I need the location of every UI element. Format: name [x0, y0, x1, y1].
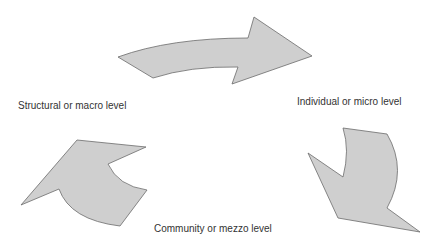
- node-label-community: Community or mezzo level: [154, 223, 272, 234]
- arrow-community-to-structural-icon: [21, 140, 147, 226]
- node-label-individual: Individual or micro level: [297, 96, 402, 107]
- arrow-individual-to-community-icon: [308, 128, 420, 232]
- node-label-structural: Structural or macro level: [18, 100, 126, 111]
- cycle-diagram: Structural or macro level Individual or …: [0, 0, 432, 249]
- arrows-layer: [0, 0, 432, 249]
- arrow-structural-to-individual-icon: [118, 17, 312, 84]
